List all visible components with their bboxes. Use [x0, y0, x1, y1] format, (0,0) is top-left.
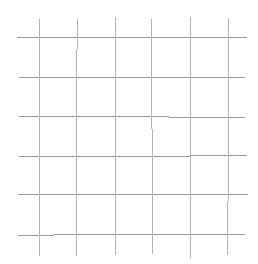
- canvas-background: [0, 0, 258, 264]
- grid-line-vertical: [228, 18, 229, 255]
- grid-line-horizontal: [18, 235, 245, 236]
- grid-line-vertical: [152, 19, 153, 254]
- grid-canvas: [0, 0, 258, 264]
- grid-svg: [0, 0, 258, 264]
- grid-line-horizontal: [19, 117, 244, 118]
- grid-line-vertical: [77, 19, 78, 255]
- grid-line-horizontal: [20, 156, 246, 157]
